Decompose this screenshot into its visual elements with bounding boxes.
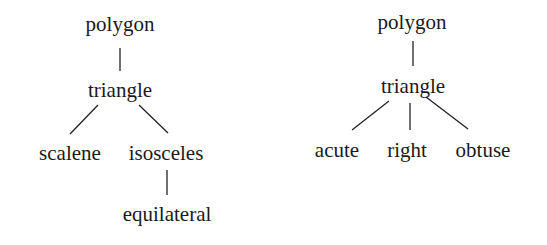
equilateral-node: equilateral bbox=[123, 204, 212, 225]
right-root-node: polygon bbox=[378, 12, 447, 33]
left-root-node: polygon bbox=[86, 14, 155, 35]
obtuse-node: obtuse bbox=[456, 140, 511, 161]
edge-triangle-isosceles bbox=[139, 105, 168, 133]
scalene-node: scalene bbox=[39, 143, 101, 164]
right-child-node: triangle bbox=[381, 76, 445, 97]
acute-node: acute bbox=[315, 140, 359, 161]
isosceles-node: isosceles bbox=[129, 143, 204, 164]
edge-triangle-scalene bbox=[70, 105, 98, 134]
right-node: right bbox=[387, 140, 427, 161]
edge-triangle-acute bbox=[352, 101, 389, 130]
left-child-node: triangle bbox=[88, 80, 152, 101]
edge-triangle-obtuse bbox=[426, 97, 468, 129]
tree-edges bbox=[0, 0, 547, 245]
